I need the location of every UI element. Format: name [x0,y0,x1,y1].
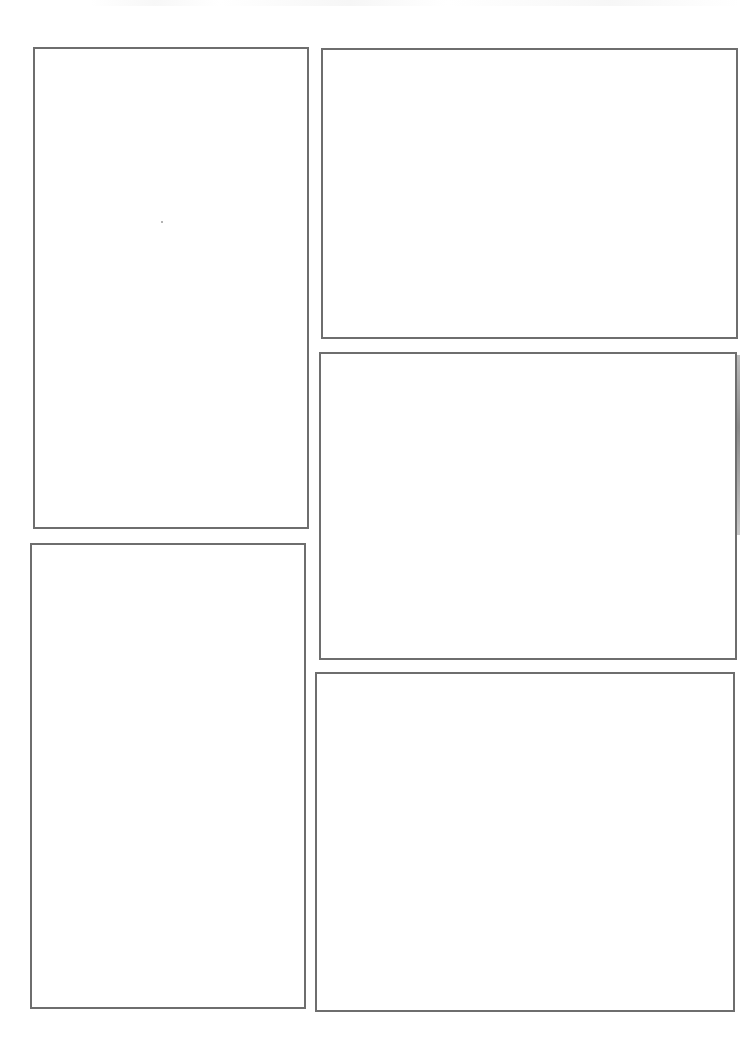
comic-panel-right-top [321,48,738,339]
comic-panel-left-bottom [30,543,306,1009]
comic-panel-right-bottom [315,672,735,1012]
scan-bleed-through [90,0,740,6]
comic-panel-left-top [33,47,309,529]
scan-speck [161,221,163,223]
comic-panel-right-middle [319,352,737,660]
